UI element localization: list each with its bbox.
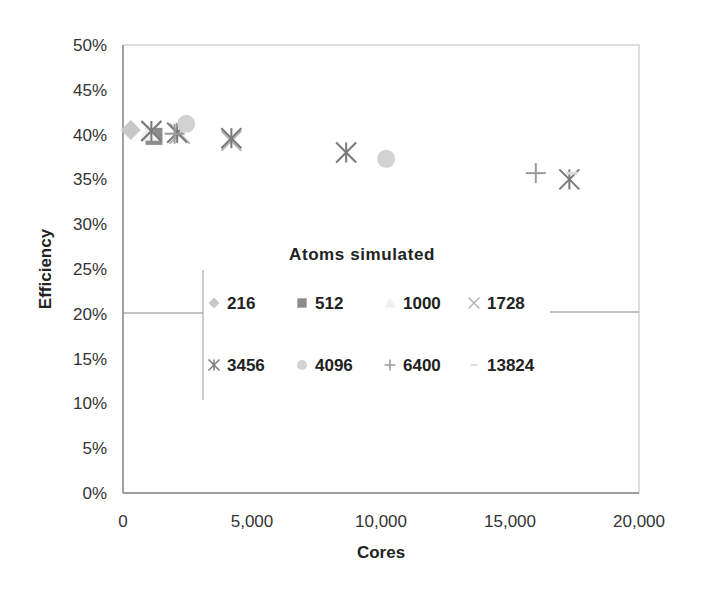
y-axis-ticks: 0%5%10%15%20%25%30%35%40%45%50% <box>73 36 107 503</box>
circle-marker-icon <box>297 360 307 370</box>
square-marker-icon <box>297 298 306 307</box>
legend-label: 6400 <box>403 356 441 375</box>
legend-label: 1000 <box>403 294 441 313</box>
y-tick-label: 40% <box>73 126 107 145</box>
legend-label: 512 <box>315 294 343 313</box>
x-axis-title: Cores <box>357 543 405 562</box>
legend-label: 4096 <box>315 356 353 375</box>
y-axis-title: Efficiency <box>36 228 55 309</box>
y-tick-label: 0% <box>82 484 107 503</box>
x-axis-ticks: 05,00010,00015,00020,000 <box>118 512 665 531</box>
y-tick-label: 10% <box>73 394 107 413</box>
y-tick-label: 35% <box>73 170 107 189</box>
y-tick-label: 25% <box>73 260 107 279</box>
legend-label: 216 <box>227 294 255 313</box>
x-tick-label: 5,000 <box>231 512 274 531</box>
x-tick-label: 0 <box>118 512 127 531</box>
x-tick-label: 15,000 <box>484 512 536 531</box>
y-tick-label: 45% <box>73 81 107 100</box>
legend-title: Atoms simulated <box>289 245 435 264</box>
y-tick-label: 20% <box>73 305 107 324</box>
scatter-chart: 0%5%10%15%20%25%30%35%40%45%50% 05,00010… <box>0 0 705 592</box>
y-tick-label: 15% <box>73 350 107 369</box>
y-tick-label: 30% <box>73 215 107 234</box>
y-tick-label: 50% <box>73 36 107 55</box>
legend-label: 3456 <box>227 356 265 375</box>
legend-label: 1728 <box>487 294 525 313</box>
x-tick-label: 20,000 <box>613 512 665 531</box>
plot-area <box>123 45 639 493</box>
legend-label: 13824 <box>487 356 535 375</box>
y-tick-label: 5% <box>82 439 107 458</box>
x-tick-label: 10,000 <box>355 512 407 531</box>
